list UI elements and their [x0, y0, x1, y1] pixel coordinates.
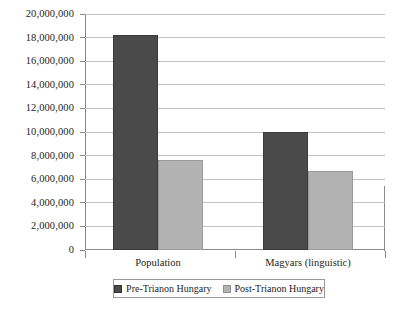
y-axis-tick-mark: [80, 14, 85, 15]
y-axis-tick-label: 14,000,000: [26, 79, 74, 90]
bar: [113, 35, 158, 250]
y-axis-tick-label: 2,000,000: [31, 220, 74, 231]
plot-right-edge: [384, 186, 385, 251]
y-axis-tick-label: 12,000,000: [26, 102, 74, 113]
legend-label-pre: Pre-Trianon Hungary: [126, 283, 211, 294]
y-axis-tick-label: 4,000,000: [31, 197, 74, 208]
legend-label-post: Post-Trianon Hungary: [235, 283, 324, 294]
y-axis-tick-mark: [80, 155, 85, 156]
bar: [158, 160, 203, 250]
y-axis-tick-mark: [80, 226, 85, 227]
y-axis-tick-label: 16,000,000: [26, 55, 74, 66]
bar: [308, 171, 353, 250]
legend-swatch-icon-post: [223, 285, 231, 293]
y-axis-tick-label: 8,000,000: [31, 150, 74, 161]
y-axis-tick-mark: [80, 61, 85, 62]
x-axis-category-label: Population: [83, 256, 233, 269]
y-axis-tick-label: 18,000,000: [26, 32, 74, 43]
legend-item-pre-trianon: Pre-Trianon Hungary: [114, 283, 211, 294]
gridline: [85, 14, 385, 15]
y-axis-tick-mark: [80, 202, 85, 203]
x-axis-tick-mark: [385, 251, 386, 258]
y-axis-tick-label: 6,000,000: [31, 173, 74, 184]
bar: [263, 132, 308, 250]
y-axis-tick-mark: [80, 84, 85, 85]
legend-item-post-trianon: Post-Trianon Hungary: [223, 283, 324, 294]
y-axis-tick-label: 20,000,000: [26, 8, 74, 19]
x-axis-category-label: Magyars (linguistic): [233, 256, 383, 269]
y-axis-tick-mark: [80, 108, 85, 109]
legend-swatch-icon-pre: [114, 285, 122, 293]
y-axis-tick-label: 10,000,000: [26, 126, 74, 137]
y-axis-tick-label: 0: [69, 244, 74, 255]
y-axis-tick-mark: [80, 37, 85, 38]
y-axis-tick-mark: [80, 179, 85, 180]
chart-legend: Pre-Trianon Hungary Post-Trianon Hungary: [113, 279, 325, 298]
bar-chart: 20,000,00018,000,00016,000,00014,000,000…: [0, 0, 406, 314]
y-axis-tick-mark: [80, 132, 85, 133]
